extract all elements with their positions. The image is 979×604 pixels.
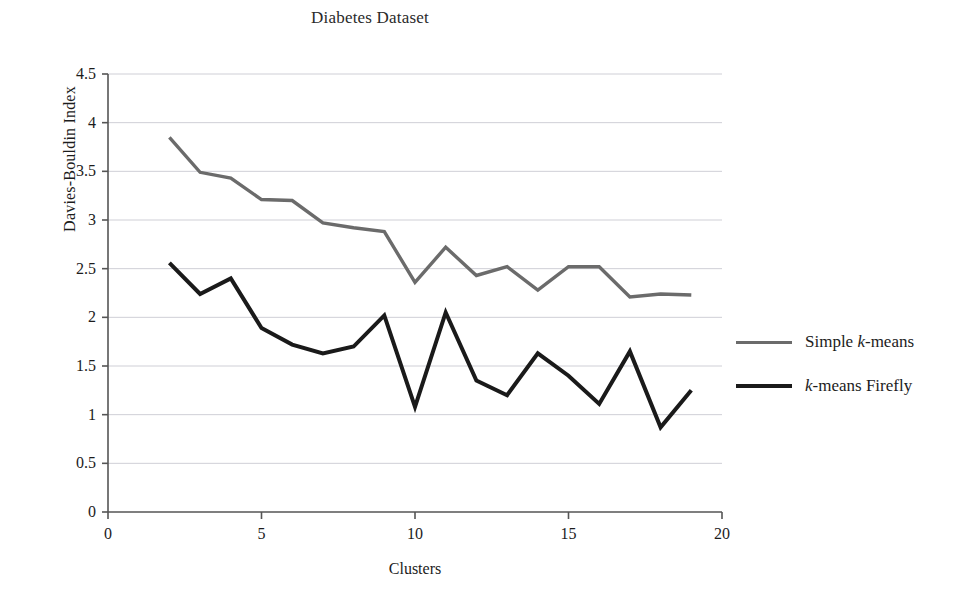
series-line-1 <box>169 263 691 427</box>
chart-legend: Simple k-meansk-means Firefly <box>736 320 979 408</box>
legend-item[interactable]: Simple k-means <box>736 320 979 364</box>
legend-line-swatch <box>736 384 792 388</box>
legend-item-label: Simple k-means <box>805 332 914 352</box>
chart-figure: Diabetes Dataset Davies-Bouldin Index Cl… <box>0 0 979 604</box>
legend-line-swatch <box>736 341 792 344</box>
legend-item[interactable]: k-means Firefly <box>736 364 979 408</box>
legend-item-label: k-means Firefly <box>805 376 912 396</box>
plot-area <box>0 0 979 604</box>
data-series <box>169 137 691 427</box>
series-line-0 <box>169 137 691 297</box>
